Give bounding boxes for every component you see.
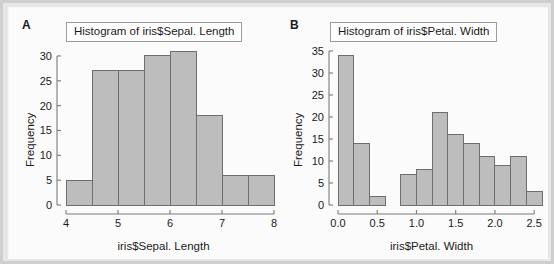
panel-b-title: Histogram of iris$Petal. Width bbox=[330, 22, 497, 42]
svg-text:10: 10 bbox=[40, 149, 52, 161]
svg-text:0.5: 0.5 bbox=[370, 217, 385, 229]
svg-text:5: 5 bbox=[318, 177, 324, 189]
svg-text:15: 15 bbox=[40, 124, 52, 136]
svg-text:6: 6 bbox=[167, 217, 173, 229]
svg-text:1.5: 1.5 bbox=[448, 217, 463, 229]
svg-text:7: 7 bbox=[219, 217, 225, 229]
panel-b: B Histogram of iris$Petal. Width Frequen… bbox=[280, 7, 548, 259]
svg-text:5: 5 bbox=[115, 217, 121, 229]
panel-a-letter: A bbox=[22, 18, 31, 32]
svg-text:4: 4 bbox=[63, 217, 69, 229]
svg-text:0: 0 bbox=[318, 199, 324, 211]
svg-text:0: 0 bbox=[46, 199, 52, 211]
svg-text:25: 25 bbox=[312, 89, 324, 101]
figure-root: A Histogram of iris$Sepal. Length Freque… bbox=[0, 0, 554, 264]
svg-text:2.0: 2.0 bbox=[487, 217, 502, 229]
svg-text:8: 8 bbox=[271, 217, 277, 229]
svg-text:1.0: 1.0 bbox=[409, 217, 424, 229]
svg-text:30: 30 bbox=[40, 50, 52, 62]
panel-b-xlabel: iris$Petal. Width bbox=[324, 240, 539, 252]
svg-text:5: 5 bbox=[46, 174, 52, 186]
panel-a-title: Histogram of iris$Sepal. Length bbox=[66, 22, 242, 42]
svg-text:25: 25 bbox=[40, 75, 52, 87]
panel-container: A Histogram of iris$Sepal. Length Freque… bbox=[8, 7, 548, 259]
svg-text:2.5: 2.5 bbox=[527, 217, 542, 229]
svg-text:0.0: 0.0 bbox=[330, 217, 345, 229]
panel-a: A Histogram of iris$Sepal. Length Freque… bbox=[8, 7, 280, 259]
svg-text:30: 30 bbox=[312, 67, 324, 79]
panel-a-xlabel: iris$Sepal. Length bbox=[56, 240, 271, 252]
svg-text:15: 15 bbox=[312, 133, 324, 145]
panel-b-letter: B bbox=[290, 18, 299, 32]
svg-text:20: 20 bbox=[40, 100, 52, 112]
panel-b-plot: 051015202530350.00.51.01.52.02.5 bbox=[298, 45, 546, 235]
svg-text:10: 10 bbox=[312, 155, 324, 167]
panel-a-plot: 05101520253045678 bbox=[30, 45, 278, 235]
svg-text:20: 20 bbox=[312, 111, 324, 123]
svg-text:35: 35 bbox=[312, 45, 324, 57]
